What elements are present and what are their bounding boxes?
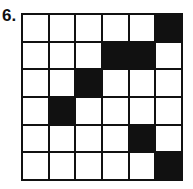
empty-cell	[23, 15, 48, 41]
empty-cell	[23, 43, 48, 69]
empty-cell	[130, 70, 155, 96]
empty-cell	[103, 70, 128, 96]
empty-cell	[156, 43, 181, 69]
filled-cell	[50, 98, 75, 124]
empty-cell	[23, 153, 48, 179]
empty-cell	[50, 70, 75, 96]
empty-cell	[23, 70, 48, 96]
empty-cell	[76, 15, 101, 41]
empty-cell	[76, 98, 101, 124]
filled-cell	[156, 15, 181, 41]
empty-cell	[76, 126, 101, 152]
empty-cell	[76, 153, 101, 179]
empty-cell	[103, 153, 128, 179]
empty-cell	[130, 15, 155, 41]
filled-cell	[103, 43, 128, 69]
empty-cell	[103, 126, 128, 152]
empty-cell	[130, 98, 155, 124]
problem-number: 6.	[2, 6, 16, 26]
empty-cell	[23, 126, 48, 152]
empty-cell	[76, 43, 101, 69]
filled-cell	[156, 153, 181, 179]
empty-cell	[50, 126, 75, 152]
empty-cell	[50, 43, 75, 69]
empty-cell	[103, 15, 128, 41]
empty-cell	[156, 126, 181, 152]
empty-cell	[103, 98, 128, 124]
empty-cell	[156, 98, 181, 124]
filled-cell	[130, 43, 155, 69]
filled-cell	[76, 70, 101, 96]
empty-cell	[50, 153, 75, 179]
empty-cell	[23, 98, 48, 124]
empty-cell	[50, 15, 75, 41]
pattern-grid	[21, 13, 183, 181]
empty-cell	[130, 153, 155, 179]
empty-cell	[156, 70, 181, 96]
filled-cell	[130, 126, 155, 152]
